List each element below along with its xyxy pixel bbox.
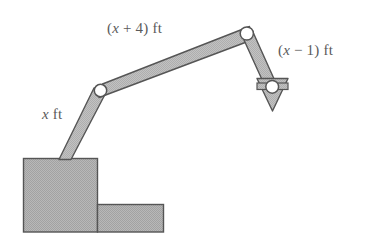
- label-middle-arm-suffix: + 4) ft: [119, 20, 162, 36]
- arm-segment-middle: [99, 27, 251, 98]
- arm-segment-middle-body: [99, 27, 251, 98]
- figure-container: (x + 4) ft (x − 1) ft x ft: [0, 0, 375, 247]
- arm-segment-lower: [59, 88, 106, 160]
- label-lower-arm-suffix: ft: [49, 106, 63, 122]
- label-lower-arm-variable: x: [42, 106, 49, 122]
- label-end-arm-suffix: − 1) ft: [290, 42, 333, 58]
- joint-shoulder: [240, 27, 253, 40]
- label-middle-arm-length: (x + 4) ft: [107, 20, 162, 37]
- base-block-small: [98, 205, 164, 233]
- arm-segment-lower-body: [59, 88, 106, 160]
- base-block-large: [24, 159, 98, 233]
- label-end-arm-length: (x − 1) ft: [278, 42, 333, 59]
- base-assembly: [24, 159, 164, 233]
- joint-wrist: [266, 80, 279, 93]
- joint-elbow: [94, 84, 106, 96]
- robot-arm-diagram: [0, 0, 375, 247]
- label-lower-arm-length: x ft: [42, 106, 62, 123]
